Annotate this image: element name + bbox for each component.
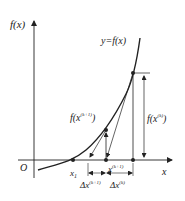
point-xk1 bbox=[104, 158, 108, 162]
dxk-label: Δx(k) bbox=[109, 180, 125, 190]
x-axis-label: x bbox=[161, 166, 167, 177]
function-curve bbox=[38, 38, 140, 170]
origin-label: O bbox=[20, 162, 27, 173]
newton-method-diagram: f(x) y=f(x) O x x1 x(k+1) f(x(k+1)) f(x(… bbox=[0, 0, 185, 201]
point-curve-xk bbox=[131, 71, 135, 75]
y-axis-label: f(x) bbox=[10, 18, 26, 31]
fxk1-label: f(x(k+1)) bbox=[70, 112, 96, 124]
point-xk bbox=[131, 158, 135, 162]
fxk-label: f(x(k)) bbox=[147, 113, 167, 125]
xk1-label: x(k+1) bbox=[107, 164, 124, 174]
dxk1-label: Δx(k+1) bbox=[79, 180, 101, 190]
tangent-xk bbox=[107, 73, 133, 157]
x1-label: x1 bbox=[69, 168, 77, 179]
point-curve-xk1 bbox=[104, 128, 108, 132]
curve-label: y=f(x) bbox=[100, 35, 127, 47]
point-x1 bbox=[71, 158, 75, 162]
